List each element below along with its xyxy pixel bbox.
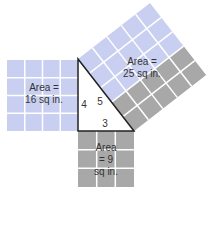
square-9-label: Area = 9 sq in. — [80, 142, 132, 178]
square-9-label-line3: sq in. — [80, 166, 132, 178]
square-9-label-line1: Area — [80, 142, 132, 154]
square-25-label-line2: 25 sq in. — [112, 68, 172, 80]
square-9-label-line2: = 9 — [80, 154, 132, 166]
square-25-label: Area = 25 sq in. — [112, 56, 172, 80]
square-16-label-line1: Area = — [14, 82, 74, 94]
side-label-5: 5 — [96, 96, 104, 108]
square-16-label: Area = 16 sq in. — [14, 82, 74, 106]
square-16-label-line2: 16 sq in. — [14, 94, 74, 106]
side-label-4: 4 — [80, 99, 88, 111]
square-25-label-line1: Area = — [112, 56, 172, 68]
side-label-3: 3 — [101, 118, 109, 130]
